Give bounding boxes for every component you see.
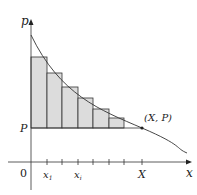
rectangle-4 [78,98,93,128]
diagram-canvas: p x 0 P (X, P) x1 xi X [0,0,197,195]
tick-X-label: X [137,168,147,181]
riemann-rectangles [31,57,124,128]
tick-xi-label: xi [74,169,82,181]
rectangle-2 [47,73,62,128]
x-axis-arrow-icon [186,160,192,165]
price-level-label: P [19,122,28,135]
tick-x1-label: x1 [43,169,52,181]
y-axis-arrow-icon [29,19,34,25]
point-X-P [140,126,143,129]
y-axis-label: p [21,14,29,28]
demand-curve-diagram: p x 0 P (X, P) x1 xi X [0,0,197,195]
point-label: (X, P) [144,112,172,123]
origin-label: 0 [20,167,27,180]
x-axis-label: x [186,166,193,180]
rectangle-1 [31,57,47,128]
